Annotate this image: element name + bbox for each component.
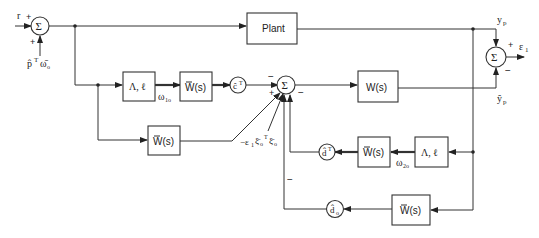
svg-text:T: T xyxy=(239,80,243,86)
svg-text:ε: ε xyxy=(519,41,523,52)
xi-to-summer-line xyxy=(268,94,283,131)
error-summer-plus: + xyxy=(508,40,513,50)
wbar-middle-label: W(s) xyxy=(153,136,174,147)
svg-text:o: o xyxy=(274,141,277,147)
error-summer-minus: − xyxy=(505,65,511,76)
error-summer-sigma: Σ xyxy=(491,51,497,63)
svg-text:T: T xyxy=(328,146,332,152)
block-diagram: r + Σ + p̂ T ω̄ o Plant y p Σ + − ε 1 Λ,… xyxy=(0,0,539,238)
svg-text:T: T xyxy=(34,56,39,64)
wbar-lower-right-label: W(s) xyxy=(363,147,384,158)
svg-text:p: p xyxy=(503,19,507,27)
p-omega-label: p̂ T ω̄ o xyxy=(27,56,50,70)
input-summer-sigma: Σ xyxy=(36,20,42,32)
svg-text:1: 1 xyxy=(251,142,254,148)
svg-text:p: p xyxy=(503,98,507,106)
svg-text:o: o xyxy=(260,141,263,147)
svg-text:o: o xyxy=(47,64,50,70)
wbar-bottom-label: W(s) xyxy=(400,205,421,216)
svg-text:ω: ω xyxy=(396,157,403,168)
svg-text:T: T xyxy=(264,134,268,140)
w-model-label: W(s) xyxy=(366,82,387,93)
svg-text:d̂: d̂ xyxy=(322,147,327,158)
omega1-label: ω 1o xyxy=(158,91,171,103)
lambda-l-lower-label: Λ, ℓ xyxy=(421,147,438,158)
wbar-upper-label: W(s) xyxy=(185,82,206,93)
svg-text:ĉ: ĉ xyxy=(233,81,237,91)
svg-text:1: 1 xyxy=(525,46,529,54)
yp-label: y p xyxy=(497,14,507,27)
svg-text:2o: 2o xyxy=(403,163,409,169)
plant-label: Plant xyxy=(262,23,285,34)
e1-label: ε 1 xyxy=(519,41,529,54)
wbar-middle-to-summer-line xyxy=(232,93,280,141)
omega2-label: ω 2o xyxy=(396,157,409,169)
main-summer-minus-c: − xyxy=(268,71,274,82)
main-summer-plus-xi: + xyxy=(269,88,274,98)
svg-text:p̂: p̂ xyxy=(27,58,32,69)
input-summer-plus-p: + xyxy=(30,37,35,47)
lambda-l-upper-label: Λ, ℓ xyxy=(129,81,146,92)
svg-text:−ε: −ε xyxy=(240,137,249,147)
svg-text:ω: ω xyxy=(158,91,165,102)
input-summer-plus-r: + xyxy=(26,12,31,22)
svg-text:ŷ: ŷ xyxy=(497,93,502,104)
main-summer-minus-out: − xyxy=(298,87,304,98)
svg-text:1o: 1o xyxy=(165,97,171,103)
svg-text:o: o xyxy=(336,210,339,216)
yp-hat-label: ŷ p xyxy=(497,93,507,106)
r-label: r xyxy=(17,10,21,21)
svg-text:y: y xyxy=(497,14,502,25)
d0-minus-sign: − xyxy=(287,174,293,185)
xi-term-label: −ε 1 ξ̄ o T ξ̄ o xyxy=(240,134,277,148)
main-summer-sigma: Σ xyxy=(282,79,288,91)
svg-text:d̂: d̂ xyxy=(330,204,335,215)
